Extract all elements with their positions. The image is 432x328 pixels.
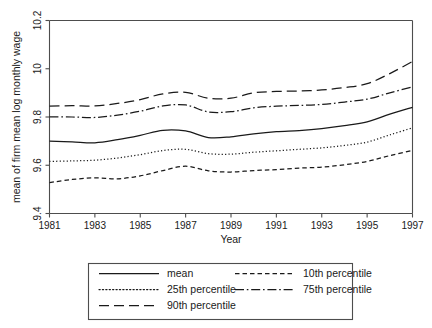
y-tick-label: 10.2 [32, 10, 43, 30]
x-tick-label: 1983 [84, 220, 107, 231]
y-tick-label: 9.4 [32, 206, 43, 220]
legend: mean10th percentile25th percentile75th p… [89, 264, 373, 320]
x-tick-label: 1993 [311, 220, 334, 231]
legend-label-75th-percentile: 75th percentile [303, 283, 372, 295]
y-axis-title: mean of firm mean log monthly wage [10, 31, 22, 203]
x-tick-label: 1989 [220, 220, 243, 231]
y-tick-label: 9.8 [32, 110, 43, 124]
chart-container: 9.49.69.81010.2 198119831985198719891991… [0, 0, 432, 328]
y-tick-label: 9.6 [32, 158, 43, 172]
x-tick-label: 1995 [356, 220, 379, 231]
x-axis-title: Year [220, 233, 242, 245]
legend-label-10th-percentile: 10th percentile [303, 267, 372, 279]
x-tick-label: 1985 [129, 220, 152, 231]
legend-label-25th-percentile: 25th percentile [167, 283, 236, 295]
y-tick-label: 10 [32, 63, 43, 75]
legend-label-mean: mean [167, 267, 193, 279]
wage-percentile-line-chart: 9.49.69.81010.2 198119831985198719891991… [0, 0, 432, 328]
x-tick-label: 1987 [175, 220, 198, 231]
legend-label-90th-percentile: 90th percentile [167, 299, 236, 311]
x-tick-label: 1997 [401, 220, 424, 231]
x-tick-label: 1981 [38, 220, 61, 231]
x-tick-label: 1991 [265, 220, 288, 231]
